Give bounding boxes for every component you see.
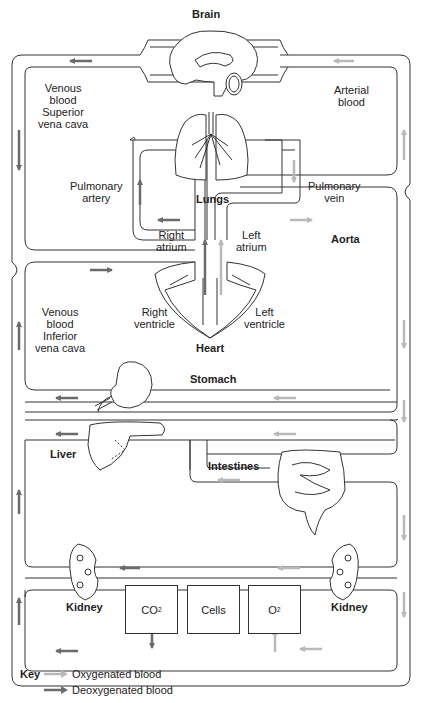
legend-oxygenated: Oxygenated blood <box>44 667 161 681</box>
kidney-left-icon <box>70 544 98 600</box>
label-heart: Heart <box>196 342 224 354</box>
label-kidney-right: Kidney <box>331 601 368 613</box>
label-kidney-left: Kidney <box>66 601 103 613</box>
label-venous-inferior: Venous blood Inferior vena cava <box>35 306 85 354</box>
co2-box: CO2 <box>125 585 178 634</box>
o2-box: O2 <box>248 585 301 634</box>
brain-icon <box>170 31 258 96</box>
stomach-icon <box>95 362 152 412</box>
label-intestines: Intestines <box>208 460 259 472</box>
intestines-icon <box>278 450 345 535</box>
lungs-icon <box>175 112 248 180</box>
label-liver: Liver <box>50 448 76 460</box>
liver-icon <box>88 422 165 470</box>
label-right-ventricle: Right ventricle <box>134 306 175 330</box>
legend-deoxygenated: Deoxygenated blood <box>44 683 173 697</box>
cells-box: Cells <box>187 585 240 634</box>
label-left-ventricle: Left ventricle <box>244 306 285 330</box>
label-lungs: Lungs <box>196 193 229 205</box>
label-pulmonary-artery: Pulmonary artery <box>70 180 123 204</box>
label-aorta: Aorta <box>331 233 360 245</box>
label-right-atrium: Right atrium <box>156 229 187 253</box>
label-brain: Brain <box>192 8 220 20</box>
legend-title: Key <box>20 667 40 681</box>
label-left-atrium: Left atrium <box>236 229 267 253</box>
label-venous-superior: Venous blood Superior vena cava <box>38 82 88 130</box>
oxygenated-arrow-icon <box>44 670 68 678</box>
label-arterial: Arterial blood <box>334 84 369 108</box>
label-stomach: Stomach <box>190 373 236 385</box>
label-pulmonary-vein: Pulmonary vein <box>308 180 361 204</box>
deoxygenated-arrow-icon <box>44 686 68 694</box>
legend: Key Oxygenated blood Deoxygenated blood <box>0 667 200 703</box>
kidney-right-icon <box>330 544 358 600</box>
